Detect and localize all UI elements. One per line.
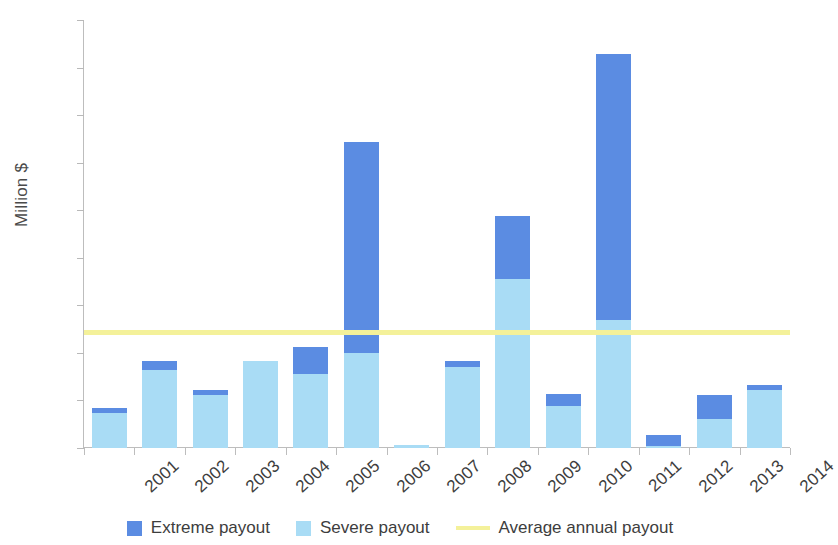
y-tick-mark: [77, 163, 84, 164]
x-tick-mark: [790, 448, 791, 455]
average-annual-payout-line: [84, 330, 790, 335]
x-tick-mark: [588, 448, 589, 455]
x-axis-label-2008: 2008: [494, 456, 536, 497]
x-tick-mark: [740, 448, 741, 455]
y-tick-mark: [77, 258, 84, 259]
legend-item[interactable]: Extreme payout: [127, 518, 270, 538]
bar-segment-severe[interactable]: [344, 353, 379, 448]
bar-segment-severe[interactable]: [193, 395, 228, 448]
bar-segment-severe[interactable]: [293, 374, 328, 448]
y-tick-mark: [77, 115, 84, 116]
bar-segment-extreme[interactable]: [596, 54, 631, 319]
legend-label: Average annual payout: [499, 518, 674, 538]
x-axis-label-2001: 2001: [141, 456, 183, 497]
bar-segment-extreme[interactable]: [293, 347, 328, 374]
x-tick-mark: [639, 448, 640, 455]
bar-segment-extreme[interactable]: [747, 385, 782, 390]
x-tick-mark: [689, 448, 690, 455]
x-axis-label-2014: 2014: [796, 456, 838, 497]
legend-line-icon: [456, 526, 490, 530]
legend-item[interactable]: Average annual payout: [456, 518, 674, 538]
legend-swatch-icon: [296, 521, 311, 536]
y-tick-mark: [77, 400, 84, 401]
x-tick-mark: [487, 448, 488, 455]
bar-segment-severe[interactable]: [142, 370, 177, 448]
bar-segment-extreme[interactable]: [92, 408, 127, 413]
x-axis-label-2007: 2007: [443, 456, 485, 497]
bar-segment-extreme[interactable]: [344, 142, 379, 353]
x-axis-label-2010: 2010: [595, 456, 637, 497]
y-tick-mark: [77, 68, 84, 69]
bar-segment-severe[interactable]: [445, 367, 480, 448]
y-tick-mark: [77, 448, 84, 449]
bar-segment-extreme[interactable]: [495, 216, 530, 279]
bar-segment-severe[interactable]: [92, 413, 127, 448]
x-axis-label-2003: 2003: [242, 456, 284, 497]
legend-label: Extreme payout: [151, 518, 270, 538]
x-axis-label-2006: 2006: [393, 456, 435, 497]
bar-segment-extreme[interactable]: [546, 394, 581, 406]
x-tick-mark: [336, 448, 337, 455]
bar-segment-extreme[interactable]: [142, 361, 177, 370]
x-tick-mark: [134, 448, 135, 455]
legend-label: Severe payout: [320, 518, 430, 538]
bar-segment-severe[interactable]: [747, 390, 782, 448]
y-axis-title: Million $: [12, 125, 32, 265]
bar-segment-severe[interactable]: [394, 445, 429, 448]
bar-segment-severe[interactable]: [546, 406, 581, 448]
bar-segment-severe[interactable]: [243, 361, 278, 448]
y-tick-mark: [77, 353, 84, 354]
x-axis-label-2012: 2012: [695, 456, 737, 497]
x-axis-label-2009: 2009: [544, 456, 586, 497]
x-tick-mark: [437, 448, 438, 455]
x-tick-mark: [387, 448, 388, 455]
x-tick-mark: [185, 448, 186, 455]
x-axis-label-2011: 2011: [645, 456, 686, 496]
x-tick-mark: [538, 448, 539, 455]
x-axis-label-2005: 2005: [342, 456, 384, 497]
x-tick-mark: [235, 448, 236, 455]
y-axis-line: [83, 20, 84, 448]
bar-segment-extreme[interactable]: [193, 390, 228, 395]
bar-segment-extreme[interactable]: [646, 435, 681, 446]
legend-item[interactable]: Severe payout: [296, 518, 430, 538]
bar-segment-severe[interactable]: [646, 446, 681, 448]
bar-segment-severe[interactable]: [495, 279, 530, 448]
y-tick-mark: [77, 210, 84, 211]
bar-segment-extreme[interactable]: [445, 361, 480, 368]
y-tick-mark: [77, 305, 84, 306]
bar-segment-severe[interactable]: [697, 419, 732, 448]
legend-swatch-icon: [127, 521, 142, 536]
bar-segment-severe[interactable]: [596, 320, 631, 448]
x-tick-mark: [84, 448, 85, 455]
bar-segment-extreme[interactable]: [697, 395, 732, 419]
y-tick-mark: [77, 20, 84, 21]
x-tick-mark: [286, 448, 287, 455]
chart-legend: Extreme payoutSevere payoutAverage annua…: [0, 518, 800, 538]
x-axis-label-2004: 2004: [292, 456, 334, 497]
x-axis-label-2002: 2002: [191, 456, 233, 497]
plot-area: 051015202530354045 200120022003200420052…: [84, 20, 790, 448]
x-axis-label-2013: 2013: [746, 456, 788, 497]
